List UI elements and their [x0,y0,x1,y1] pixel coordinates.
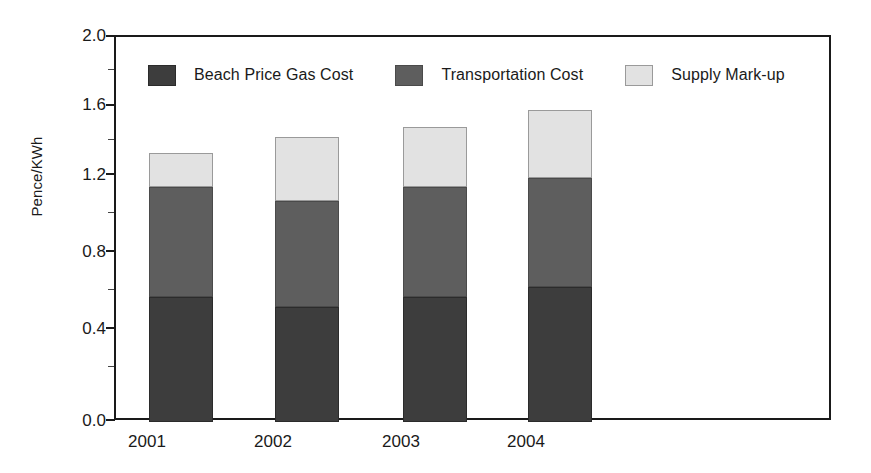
legend-label-beach-price-gas-cost: Beach Price Gas Cost [194,66,353,84]
legend-item-supply-mark-up: Supply Mark-up [625,65,784,86]
y-axis-title: Pence/KWh [28,107,45,247]
legend-swatch-transportation-cost [395,65,423,86]
y-tick-label-0-8: 0.8 [60,243,106,260]
x-axis-tick-labels: 2001 2002 2003 2004 [114,432,831,458]
bar-segment-beach-price-gas-cost-2004 [528,287,592,422]
x-tick-label-2003: 2003 [356,432,446,452]
bar-segment-supply-mark-up-2002 [275,137,339,201]
bar-segment-supply-mark-up-2003 [403,127,467,187]
legend-label-supply-mark-up: Supply Mark-up [671,66,784,84]
bar-group-2004 [528,110,592,422]
bar-group-2002 [275,137,339,422]
legend-swatch-supply-mark-up [625,65,653,86]
y-tick-label-1-2: 1.2 [60,166,106,183]
y-tick-label-2-0: 2.0 [60,27,106,44]
bar-segment-transportation-cost-2004 [528,178,592,288]
plot-area [114,35,831,420]
x-tick-label-2001: 2001 [102,432,192,452]
bar-segment-transportation-cost-2001 [149,187,213,297]
bar-segment-supply-mark-up-2001 [149,153,213,188]
y-tick-label-0-0: 0.0 [60,412,106,429]
bar-segment-transportation-cost-2002 [275,201,339,307]
legend-item-transportation-cost: Transportation Cost [395,65,583,86]
bar-group-2001 [149,153,213,423]
bar-segment-transportation-cost-2003 [403,187,467,297]
x-tick-label-2004: 2004 [481,432,571,452]
bar-group-2003 [403,127,467,422]
bar-segment-beach-price-gas-cost-2001 [149,297,213,422]
legend-swatch-beach-price-gas-cost [148,65,176,86]
x-tick-label-2002: 2002 [228,432,318,452]
y-tick-label-0-4: 0.4 [60,320,106,337]
legend-item-beach-price-gas-cost: Beach Price Gas Cost [148,65,353,86]
bars-layer [116,37,833,422]
chart-legend: Beach Price Gas Cost Transportation Cost… [148,62,785,88]
y-tick-label-1-6: 1.6 [60,96,106,113]
stacked-bar-chart: Pence/KWh 2.0 1.6 1.2 0.8 0.4 0.0 Beach … [0,0,871,473]
y-axis-tick-labels: 2.0 1.6 1.2 0.8 0.4 0.0 [46,0,106,473]
bar-segment-supply-mark-up-2004 [528,110,592,177]
bar-segment-beach-price-gas-cost-2002 [275,307,339,423]
legend-label-transportation-cost: Transportation Cost [441,66,583,84]
bar-segment-beach-price-gas-cost-2003 [403,297,467,422]
